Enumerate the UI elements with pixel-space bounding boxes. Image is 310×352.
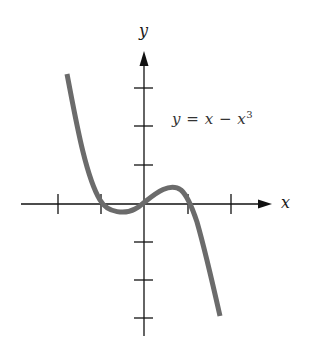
- x-axis-arrow-icon: [258, 200, 272, 209]
- plot-area: [0, 0, 310, 352]
- equation-term-x: x: [205, 110, 214, 128]
- y-axis-arrow-icon: [140, 51, 149, 66]
- equation-equals: =: [186, 110, 199, 128]
- x-axis-label: x: [281, 193, 290, 212]
- equation-label: y = x − x3: [172, 109, 253, 128]
- y-axis-label: y: [139, 21, 148, 40]
- equation-exponent: 3: [246, 109, 253, 120]
- equation-minus: −: [219, 110, 232, 128]
- equation-lhs: y: [172, 110, 181, 128]
- equation-term-base: x: [237, 110, 246, 128]
